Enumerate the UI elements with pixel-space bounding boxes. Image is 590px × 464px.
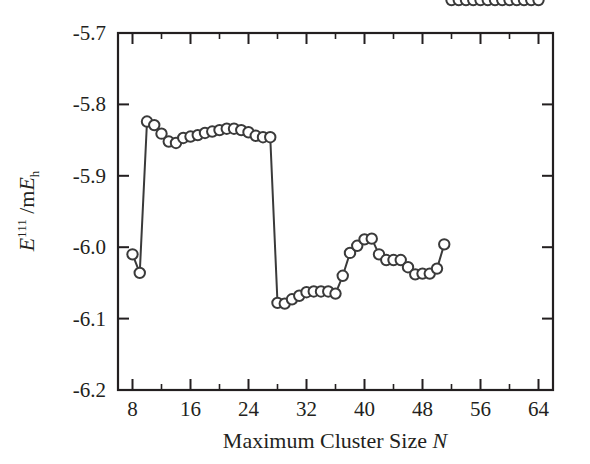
series-markers: [127, 0, 543, 309]
y-tick-label: -5.9: [73, 164, 106, 188]
y-tick-label: -6.1: [73, 307, 106, 331]
data-point-marker: [330, 288, 340, 298]
x-axis-title-text: Maximum Cluster Size N: [223, 428, 449, 453]
data-point-marker: [367, 233, 377, 243]
y-tick-label: -6.2: [73, 378, 106, 402]
plot-frame: [118, 33, 553, 390]
x-tick-label: 40: [354, 397, 375, 421]
x-tick-label: 8: [127, 397, 138, 421]
data-point-marker: [439, 239, 449, 249]
y-tick-label: -5.8: [73, 92, 106, 116]
line-chart-svg: 816243240485664 -5.7-5.8-5.9-6.0-6.1-6.2…: [0, 0, 590, 464]
data-point-marker: [432, 263, 442, 273]
x-axis-title: Maximum Cluster Size N: [223, 428, 449, 453]
x-tick-label: 24: [238, 397, 260, 421]
series-line: [133, 122, 445, 304]
data-series: [127, 0, 543, 309]
axis-frame: [118, 33, 553, 390]
x-tick-label: 64: [528, 397, 550, 421]
x-tick-label: 32: [296, 397, 317, 421]
chart-figure: 816243240485664 -5.7-5.8-5.9-6.0-6.1-6.2…: [0, 0, 590, 464]
x-axis-tick-labels: 816243240485664: [127, 397, 549, 421]
data-point-marker: [533, 0, 543, 5]
y-tick-label: -6.0: [73, 235, 106, 259]
x-tick-label: 16: [180, 397, 201, 421]
data-point-marker: [135, 268, 145, 278]
x-tick-label: 56: [470, 397, 491, 421]
data-point-marker: [338, 271, 348, 281]
data-point-marker: [127, 249, 137, 259]
y-axis-tick-labels: -5.7-5.8-5.9-6.0-6.1-6.2: [73, 21, 106, 402]
x-tick-label: 48: [412, 397, 433, 421]
y-axis-title-text: E111 /mEh: [14, 170, 42, 252]
data-point-marker: [265, 132, 275, 142]
y-tick-label: -5.7: [73, 21, 106, 45]
y-axis-title: E111 /mEh: [14, 170, 42, 252]
x-axis-ticks: [133, 33, 539, 390]
